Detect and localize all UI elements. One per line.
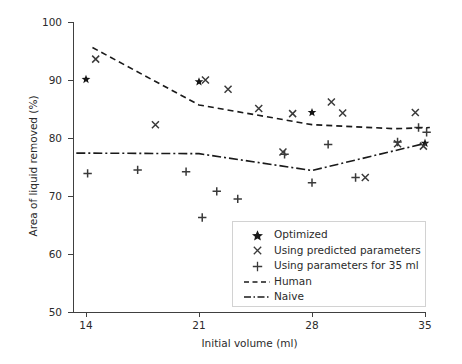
chart-data-layer — [0, 0, 462, 364]
legend-label-naive: Naive — [274, 289, 304, 305]
series-using-parameters-for-35-ml — [83, 123, 430, 221]
chart-figure: 100 90 80 70 60 50 14 21 28 35 Initial v… — [0, 0, 462, 364]
legend-label-parameters-35ml: Using parameters for 35 ml — [274, 258, 419, 274]
legend-label-predicted-parameters: Using predicted parameters — [274, 243, 421, 259]
series-naive — [76, 143, 428, 171]
legend-label-human: Human — [274, 274, 312, 290]
dashdot-line-icon — [240, 289, 274, 305]
chart-legend: Optimized Using predicted parameters Usi… — [232, 221, 426, 307]
x-marker-icon — [240, 243, 274, 259]
star-marker-icon — [240, 227, 274, 243]
series-human — [92, 48, 429, 129]
plus-marker-icon — [240, 258, 274, 274]
legend-item-optimized: Optimized — [240, 227, 418, 243]
legend-item-parameters-35ml: Using parameters for 35 ml — [240, 258, 418, 274]
legend-item-human: Human — [240, 274, 418, 290]
dashed-line-icon — [240, 274, 274, 290]
legend-label-optimized: Optimized — [274, 227, 328, 243]
legend-item-predicted-parameters: Using predicted parameters — [240, 243, 418, 259]
legend-item-naive: Naive — [240, 289, 418, 305]
